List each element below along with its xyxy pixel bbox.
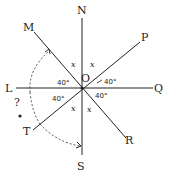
label-S: S: [77, 160, 85, 173]
center-point: [81, 87, 84, 90]
var-x-ne: x: [90, 60, 95, 69]
label-N: N: [77, 4, 87, 17]
var-x-sw: x: [71, 104, 76, 113]
angle-upper-left: 40°: [57, 79, 69, 87]
angle-lower-left: 40°: [52, 95, 64, 103]
dashed-arc-mid: [30, 92, 40, 124]
label-T: T: [23, 125, 31, 138]
label-P: P: [141, 31, 149, 44]
angle-arrow-upper-right-icon: [97, 80, 102, 83]
label-L: L: [5, 82, 13, 95]
label-R: R: [125, 134, 134, 147]
label-M: M: [23, 21, 34, 34]
label-O: O: [81, 72, 90, 85]
unknown-point: [18, 114, 21, 117]
var-x-se: x: [87, 105, 92, 114]
direction-diagram: N S L Q M P T R O 40° 40° 40° 40° x x x …: [0, 0, 172, 173]
var-x-nw: x: [71, 60, 76, 69]
unknown-marker: ?: [14, 96, 20, 109]
line-PT: [33, 42, 140, 130]
arrowhead-upper-icon: [45, 49, 50, 54]
angle-lower-right: 40°: [95, 92, 107, 100]
arrowhead-lower-icon: [76, 142, 81, 148]
angle-upper-right: 40°: [104, 78, 116, 86]
label-Q: Q: [154, 82, 163, 95]
dashed-arc-upper: [30, 52, 48, 92]
dashed-arc-lower: [40, 124, 80, 146]
